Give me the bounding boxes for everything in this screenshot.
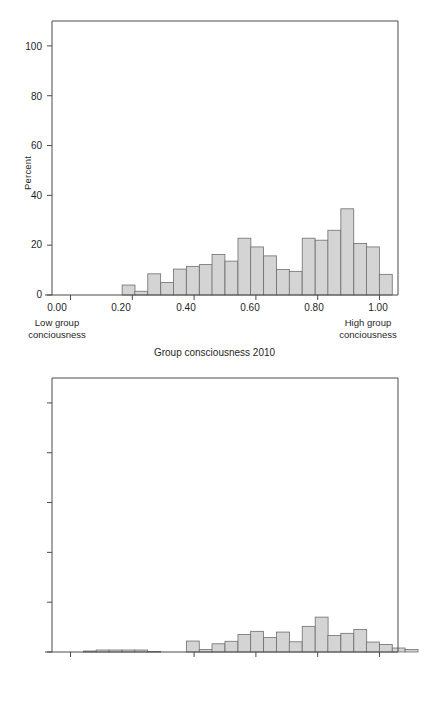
histogram-bar [238, 635, 251, 652]
histogram-bar [289, 642, 302, 652]
y-tick-80: 80 [14, 91, 42, 102]
histogram-bar [405, 650, 418, 652]
histogram-bar [264, 256, 277, 295]
y-tick-0: 0 [14, 289, 42, 300]
x-tick-020: 0.20 [99, 302, 143, 313]
histogram-bar [289, 271, 302, 295]
x-tick-040: 0.40 [164, 302, 208, 313]
histogram-bar [328, 230, 341, 295]
histogram-bar [122, 285, 135, 295]
histogram-bar [199, 265, 212, 295]
x-tick-080: 0.80 [292, 302, 336, 313]
histogram-bar [251, 247, 264, 295]
histogram-bar [366, 247, 379, 295]
histogram-bar [238, 238, 251, 295]
histogram-bar [354, 630, 367, 652]
histogram-bar [392, 648, 405, 652]
histogram-bar [225, 641, 238, 652]
histogram-bar [302, 238, 315, 295]
y-tick-40: 40 [14, 190, 42, 201]
histogram-bar [341, 209, 354, 295]
x-tick-100: 1.00 [356, 302, 400, 313]
histogram-bar [302, 626, 315, 652]
y-tick-60: 60 [14, 140, 42, 151]
low-anchor-line1: Low group [2, 317, 112, 330]
histogram-bar [225, 261, 238, 295]
y-tick-100: 100 [14, 41, 42, 52]
y-axis-label: Percent [22, 156, 33, 190]
histogram-bar [212, 644, 225, 652]
histogram-bar [251, 631, 264, 652]
high-anchor-line1: High group [313, 317, 423, 330]
histogram-bar [173, 269, 186, 295]
histogram-2010: Percent 0 20 40 60 80 100 0.00 0.20 0.40… [0, 0, 429, 360]
histogram-bar [379, 645, 392, 652]
histogram-bar [212, 254, 225, 295]
x-tick-000: 0.00 [35, 302, 79, 313]
histogram-bar [366, 642, 379, 652]
histogram-bar [186, 266, 199, 295]
histogram-bar [264, 638, 277, 652]
histogram-bar [277, 632, 290, 652]
histogram-bar [354, 243, 367, 295]
histogram-bar [148, 274, 161, 295]
histogram-2012: Percent 0 20 40 60 80 100 0.00 0.40 0.60… [0, 360, 429, 716]
histogram-bar [161, 283, 174, 295]
y-tick-20: 20 [14, 239, 42, 250]
low-anchor-line2: conciousness [2, 329, 112, 342]
high-anchor-line2: conciousness [313, 329, 423, 342]
histogram-bar [135, 291, 148, 295]
x-tick-060: 0.60 [228, 302, 272, 313]
histogram-bar [341, 633, 354, 652]
figure-page: Percent 0 20 40 60 80 100 0.00 0.20 0.40… [0, 0, 429, 716]
chart-caption-2010: Group consciousness 2010 [0, 347, 429, 358]
plot-area-2012 [0, 360, 429, 716]
histogram-bar [379, 274, 392, 295]
histogram-bar [186, 641, 199, 652]
histogram-bar [328, 636, 341, 652]
histogram-bar [315, 240, 328, 295]
histogram-bar [277, 270, 290, 295]
histogram-bar [315, 617, 328, 652]
